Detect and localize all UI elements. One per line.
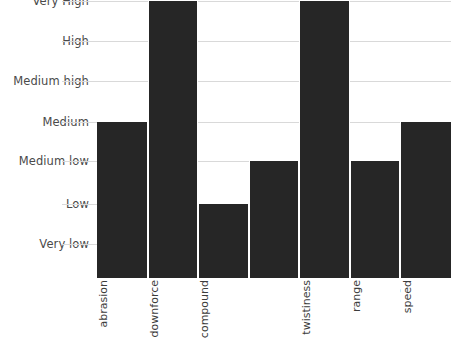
gridline-stub	[62, 122, 97, 123]
x-axis-tick-label: Temperature range	[350, 280, 364, 354]
x-axis-slot: Level of twistiness	[299, 278, 350, 354]
gridline-stub	[62, 204, 97, 205]
bar-slot	[249, 0, 300, 278]
gridline-stub	[62, 81, 97, 82]
bar-slot	[198, 0, 249, 278]
bar-slot	[299, 0, 350, 278]
bar-chart: Very High High Medium high Medium Medium…	[0, 0, 451, 354]
plot-area	[97, 0, 451, 278]
x-axis-tick-label: Braking	[249, 280, 250, 354]
x-axis-slot: Temperature range	[350, 278, 401, 354]
x-axis: Grip level of abrasion Aerodynamic downf…	[97, 278, 451, 354]
gridline-stub	[62, 244, 97, 245]
bar-series	[97, 0, 451, 278]
bar-slot	[148, 0, 199, 278]
gridline-stub	[62, 161, 97, 162]
bar[interactable]	[148, 1, 199, 278]
gridline-stub	[62, 1, 97, 2]
x-axis-slot: Grip level of abrasion	[97, 278, 148, 354]
x-axis-slot: Aerodynamic downforce	[148, 278, 199, 354]
bar-slot	[97, 0, 148, 278]
bar-slot	[350, 0, 401, 278]
x-axis-tick-label: Tyre compound	[198, 280, 212, 354]
bar[interactable]	[350, 161, 401, 278]
bar[interactable]	[299, 1, 350, 278]
x-axis-tick-label: Grip level of abrasion	[97, 280, 111, 354]
x-axis-slot: Braking	[249, 278, 300, 354]
gridline-stub	[62, 41, 97, 42]
y-axis: Very High High Medium high Medium Medium…	[0, 0, 95, 290]
x-axis-tick-label: Aerodynamic downforce	[148, 280, 162, 354]
bar[interactable]	[97, 122, 148, 278]
x-axis-slot: Tyre compound	[198, 278, 249, 354]
x-axis-tick-label: Average speed	[400, 280, 414, 354]
bar[interactable]	[400, 122, 451, 278]
bar-slot	[400, 0, 451, 278]
x-axis-tick-label: Level of twistiness	[299, 280, 313, 354]
bar[interactable]	[198, 204, 249, 278]
bar[interactable]	[249, 161, 300, 278]
x-axis-slot: Average speed	[400, 278, 451, 354]
